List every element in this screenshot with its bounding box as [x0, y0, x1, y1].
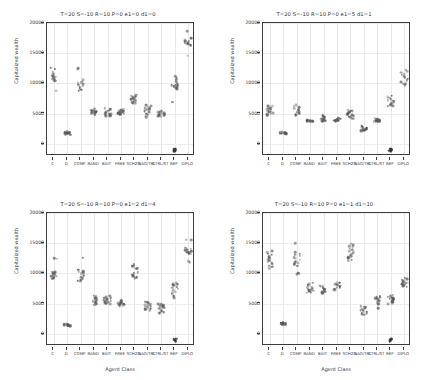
y-tick-label: 0: [2, 140, 44, 145]
x-tick-mark: [93, 157, 94, 160]
x-tick-label: CTRL/ST: [152, 351, 168, 356]
scatter-point: [360, 305, 362, 307]
y-tick-mark: [257, 112, 260, 113]
x-tick-label: FREE: [331, 161, 341, 166]
scatter-point: [188, 261, 191, 264]
x-tick-mark: [133, 157, 134, 160]
figure-canvas: T=20 S=-10 R=10 P=0 e1=0 d1=0Capitalized…: [0, 0, 433, 380]
x-tick-label: CTRL/ST: [368, 161, 384, 166]
grid-line-horizontal: [47, 144, 193, 145]
scatter-point: [350, 258, 353, 261]
scatter-point: [162, 311, 165, 314]
scatter-point: [186, 29, 189, 32]
scatter-point: [90, 112, 93, 115]
y-axis-ticks: 05000100001500020000: [0, 212, 44, 345]
x-tick-label: C: [51, 351, 54, 356]
x-axis-ticks: CDCOMPRANDBAITFREESCH2DNAO/TRLCTRL/STREP…: [262, 347, 410, 361]
x-tick-mark: [268, 157, 269, 160]
scatter-point: [122, 304, 125, 307]
grid-line-vertical: [270, 213, 271, 344]
scatter-point: [190, 239, 193, 242]
x-tick-label: DIPLO: [397, 351, 409, 356]
y-tick-mark: [41, 22, 44, 23]
x-tick-mark: [363, 157, 364, 160]
y-tick-label: 20000: [218, 210, 260, 215]
x-axis-ticks: CDCOMPRANDBAITFREESCH2DNAO/TRLCTRL/STREP…: [46, 347, 194, 361]
x-tick-label: D: [65, 161, 68, 166]
scatter-point: [294, 242, 297, 245]
scatter-point: [279, 132, 281, 134]
panel-title: T=20 S=-10 R=10 P=0 e1=1 d1=10: [216, 201, 432, 207]
y-axis-ticks: 05000100001500020000: [216, 22, 260, 155]
scatter-point: [69, 134, 71, 136]
scatter-point: [406, 281, 409, 284]
grid-line-vertical: [377, 213, 378, 344]
y-tick-mark: [41, 242, 44, 243]
scatter-point: [378, 120, 381, 123]
panel-title: T=20 S=-10 R=10 P=0 e1=0 d1=0: [0, 11, 216, 17]
scatter-point: [132, 102, 135, 105]
scatter-point: [186, 54, 189, 57]
scatter-point: [51, 278, 54, 281]
y-tick-mark: [41, 112, 44, 113]
scatter-point: [312, 281, 315, 284]
scatter-point: [185, 238, 188, 241]
scatter-point: [134, 101, 137, 104]
grid-line-vertical: [364, 213, 365, 344]
scatter-point: [347, 260, 349, 262]
scatter-point: [269, 112, 272, 115]
scatter-point: [53, 80, 56, 83]
grid-line-vertical: [324, 23, 325, 154]
scatter-point: [363, 313, 366, 316]
x-tick-mark: [336, 347, 337, 350]
scatter-panel-bottom-right: T=20 S=-10 R=10 P=0 e1=1 d1=10Capitalize…: [216, 190, 432, 380]
scatter-point: [163, 307, 165, 309]
x-tick-mark: [309, 157, 310, 160]
grid-line-vertical: [94, 23, 95, 154]
x-tick-mark: [173, 157, 174, 160]
scatter-point: [388, 340, 391, 343]
scatter-point: [266, 114, 269, 117]
x-tick-label: BAIT: [102, 351, 111, 356]
y-tick-mark: [41, 52, 44, 53]
x-tick-mark: [389, 157, 390, 160]
scatter-point: [105, 302, 108, 305]
grid-line-horizontal: [47, 243, 193, 244]
scatter-point: [295, 273, 298, 276]
scatter-panel-bottom-left: T=20 S=-10 R=10 P=0 e1=2 d1=4Capitalized…: [0, 190, 216, 380]
x-tick-mark: [160, 347, 161, 350]
scatter-point: [171, 100, 173, 102]
y-axis-ticks: 05000100001500020000: [216, 212, 260, 345]
grid-line-vertical: [297, 23, 298, 154]
y-axis-ticks: 05000100001500020000: [0, 22, 44, 155]
x-tick-mark: [389, 347, 390, 350]
x-tick-mark: [147, 157, 148, 160]
grid-line-horizontal: [47, 334, 193, 335]
scatter-point: [109, 115, 112, 118]
grid-line-vertical: [364, 23, 365, 154]
scatter-point: [299, 255, 301, 257]
scatter-point: [189, 253, 191, 255]
grid-line-horizontal: [263, 334, 409, 335]
x-tick-label: FREE: [331, 351, 341, 356]
x-tick-label: C: [51, 161, 54, 166]
scatter-point: [135, 267, 138, 270]
scatter-point: [393, 101, 396, 104]
grid-line-vertical: [310, 213, 311, 344]
grid-line-horizontal: [47, 273, 193, 274]
plot-area: [262, 22, 410, 155]
x-tick-label: FREE: [115, 161, 125, 166]
scatter-point: [109, 303, 112, 306]
y-tick-mark: [257, 82, 260, 83]
scatter-point: [69, 325, 72, 328]
x-tick-mark: [268, 347, 269, 350]
scatter-panel-top-left: T=20 S=-10 R=10 P=0 e1=0 d1=0Capitalized…: [0, 0, 216, 190]
scatter-point: [54, 68, 56, 70]
scatter-point: [285, 132, 288, 135]
scatter-point: [312, 290, 314, 292]
grid-line-vertical: [121, 213, 122, 344]
grid-line-horizontal: [263, 114, 409, 115]
grid-line-vertical: [161, 23, 162, 154]
scatter-point: [159, 115, 162, 118]
x-axis-label: Agent Class: [262, 366, 410, 372]
